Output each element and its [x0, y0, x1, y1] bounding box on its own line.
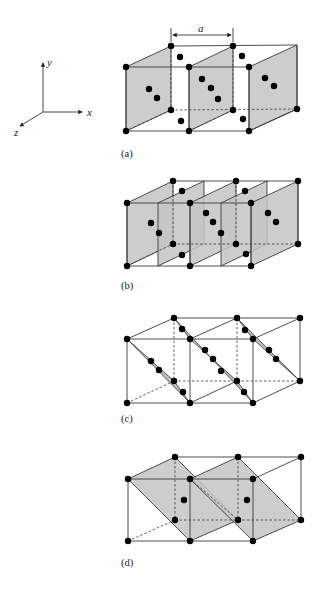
panel-a: a (a): [121, 22, 300, 160]
dimension-a: a: [171, 22, 233, 42]
caption-c: (c): [121, 413, 133, 425]
lattice-constant-label: a: [198, 22, 204, 34]
panel-b: (b): [121, 178, 301, 292]
x-axis-label: x: [86, 106, 92, 118]
caption-d: (d): [121, 557, 134, 569]
caption-a: (a): [121, 148, 133, 160]
y-axis-label: y: [46, 56, 52, 68]
z-axis-label: z: [13, 126, 19, 138]
caption-b: (b): [121, 280, 134, 292]
panel-d: (d): [121, 454, 304, 569]
coordinate-axes: y x z: [13, 56, 92, 138]
lattice-planes-figure: y x z a: [0, 0, 322, 589]
panel-c: (c): [121, 315, 303, 425]
z-axis: [20, 112, 43, 126]
